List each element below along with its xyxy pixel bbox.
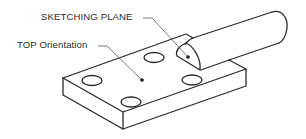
plate-front-bottom bbox=[123, 69, 246, 129]
dot-sketching-plane bbox=[186, 55, 190, 59]
hole-front bbox=[121, 97, 141, 107]
cylinder-bottom-line bbox=[229, 43, 279, 60]
cylinder-end-cap bbox=[272, 11, 287, 43]
leader-sketching-plane bbox=[143, 18, 188, 57]
hole-back bbox=[144, 53, 164, 63]
top-orientation-label: TOP Orientation bbox=[17, 40, 87, 50]
hole-left bbox=[82, 76, 102, 86]
cylinder-top-line bbox=[185, 12, 272, 44]
dot-top-orientation bbox=[140, 78, 144, 82]
sketching-plane-label: SKETCHING PLANE bbox=[41, 12, 133, 22]
base-plate bbox=[63, 34, 246, 129]
part-diagram: SKETCHING PLANE TOP Orientation bbox=[0, 0, 306, 139]
hole-right bbox=[182, 75, 202, 85]
